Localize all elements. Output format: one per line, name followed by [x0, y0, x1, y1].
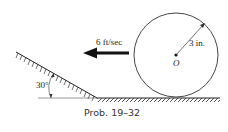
velocity-arrow: [83, 48, 129, 59]
center-label: O: [173, 58, 180, 68]
diagram-canvas: 30° O 3 in. 6 ft/sec Prob. 19–32: [0, 0, 228, 132]
velocity-label: 6 ft/sec: [96, 37, 122, 47]
ground-surface: [97, 98, 220, 102]
radius-label: 3 in.: [189, 38, 205, 48]
problem-caption: Prob. 19–32: [84, 107, 140, 118]
incline-surface: [16, 52, 97, 101]
angle-label: 30°: [36, 80, 49, 90]
